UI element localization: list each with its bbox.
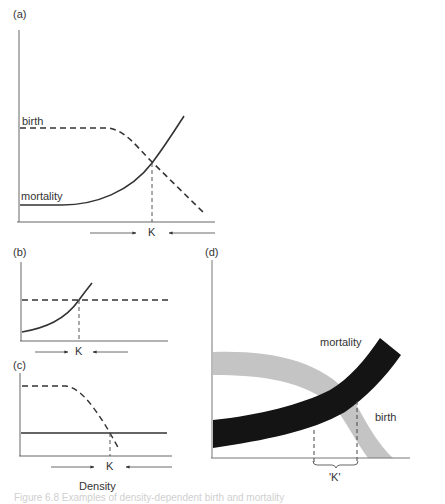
panel-a-label: (a) — [13, 8, 26, 20]
panel-c-label: (c) — [13, 359, 26, 371]
panel-b-label: (b) — [13, 246, 26, 258]
panel-d-birth-label: birth — [375, 411, 396, 423]
panel-a-k-label: K — [148, 226, 155, 238]
panel-d-label: (d) — [205, 246, 218, 258]
panel-d-k-bracket — [313, 461, 358, 468]
panel-c-k-label: K — [106, 460, 113, 472]
panel-c — [19, 373, 172, 467]
figure-caption: Figure 6.8 Examples of density-dependent… — [14, 492, 284, 503]
panel-a-birth-label: birth — [22, 115, 43, 127]
figure-canvas — [0, 0, 445, 504]
x-axis-density-label: Density — [79, 480, 116, 492]
panel-a — [17, 30, 215, 233]
panel-a-mortality-label: mortality — [21, 190, 63, 202]
panel-b-k-label: K — [75, 345, 82, 357]
panel-c-birth-curve — [22, 386, 119, 449]
panel-b — [20, 262, 168, 352]
panel-d-k-range-label: 'K' — [329, 471, 341, 483]
panel-d — [211, 260, 410, 468]
panel-b-mortality-curve — [22, 283, 92, 332]
panel-d-mortality-label: mortality — [320, 336, 362, 348]
